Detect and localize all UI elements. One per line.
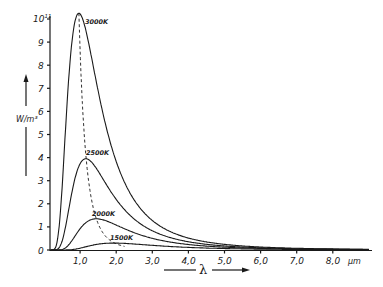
x-tick-label: 7,0 <box>290 256 305 266</box>
lambda-symbol: λ <box>199 262 207 277</box>
planck-radiation-chart: 01234567891011 1,02,03,04,05,06,07,08,0 … <box>0 0 383 287</box>
x-tick-label: 6,0 <box>254 256 269 266</box>
y-arrow-up-icon <box>24 74 29 82</box>
curve-label-3000k: 3000K <box>85 18 109 26</box>
x-tick-label: 4,0 <box>181 256 196 266</box>
y-tick-label: 3 <box>38 176 44 186</box>
curve-label-2500k: 2500K <box>86 149 110 157</box>
y-tick-label: 0 <box>38 246 44 256</box>
x-tick-label: 5,0 <box>218 256 233 266</box>
curve-label-1500k: 1500K <box>110 234 134 242</box>
curve-label-2000k: 2000K <box>92 210 116 218</box>
y-tick-label: 1 <box>38 222 44 232</box>
x-tick-label: 1,0 <box>73 256 88 266</box>
y-tick-label: 7 <box>38 84 44 94</box>
y-tick-label: 4 <box>38 153 44 163</box>
y-ticks: 01234567891011 <box>33 13 51 256</box>
x-axis-label: λ <box>164 262 250 277</box>
y-axis-label: W/m³ <box>16 74 38 176</box>
y-tick-label: 1011 <box>33 13 51 24</box>
x-arrow-right-icon <box>242 268 250 273</box>
x-unit-label: μm <box>347 257 361 266</box>
y-tick-label: 8 <box>38 61 44 71</box>
curve-2500k <box>51 159 369 250</box>
y-tick-label: 5 <box>38 130 44 140</box>
x-tick-label: 8,0 <box>326 256 341 266</box>
x-tick-label: 3,0 <box>145 256 160 266</box>
y-tick-label: 6 <box>38 107 44 117</box>
y-tick-label: 2 <box>38 199 44 209</box>
x-tick-label: 2,0 <box>109 256 124 266</box>
y-unit-label: W/m³ <box>16 115 38 124</box>
y-tick-label: 9 <box>38 38 44 48</box>
